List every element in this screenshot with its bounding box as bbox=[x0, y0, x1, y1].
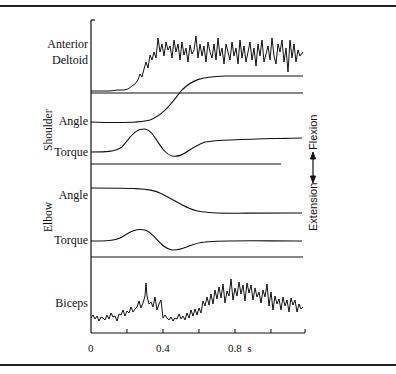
label-flexion: Flexion bbox=[307, 115, 319, 150]
extension-flexion-arrow bbox=[311, 152, 316, 183]
label-elbow-group: Elbow bbox=[42, 202, 54, 232]
label-anterior-deltoid-line2: Deltoid bbox=[24, 53, 88, 68]
x-tick-label-0-4: 0.4 bbox=[156, 342, 170, 354]
x-tick-label-0: 0 bbox=[88, 342, 94, 354]
label-elbow-torque: Torque bbox=[40, 233, 88, 248]
trace-elbow-torque bbox=[91, 229, 302, 250]
trace-shoulder-angle bbox=[91, 76, 303, 123]
trace-biceps bbox=[91, 279, 303, 321]
label-biceps: Biceps bbox=[30, 296, 88, 311]
label-elbow-angle: Angle bbox=[40, 188, 88, 203]
trace-elbow-angle bbox=[91, 188, 302, 213]
label-anterior-deltoid-line1: Anterior bbox=[24, 37, 88, 52]
trace-anterior-deltoid bbox=[91, 36, 303, 91]
label-shoulder-torque: Torque bbox=[40, 145, 88, 160]
label-shoulder-angle: Angle bbox=[40, 114, 88, 129]
trace-shoulder-torque bbox=[91, 129, 302, 156]
x-tick-label-0-8: 0.8 s bbox=[228, 342, 252, 354]
label-extension: Extension bbox=[307, 183, 319, 231]
